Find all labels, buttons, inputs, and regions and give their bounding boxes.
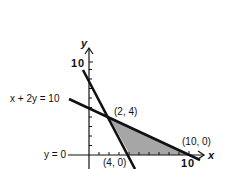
point-label-4-0: (4, 0)	[103, 158, 126, 168]
point-label-2-4: (2, 4)	[114, 107, 137, 117]
x-axis-label: x	[208, 150, 214, 161]
feasible-region-diagram: y x 10 10 x + 2y = 10 y = 0 (2, 4) (4, 0…	[0, 0, 226, 169]
line-label-x-plus-2y-10: x + 2y = 10	[10, 94, 59, 104]
x-tick-label-10: 10	[181, 158, 195, 169]
y-tick-label-10: 10	[71, 58, 85, 69]
line-label-y-equals-0: y = 0	[44, 150, 66, 160]
point-label-10-0: (10, 0)	[182, 137, 211, 147]
y-axis-label: y	[81, 38, 87, 49]
